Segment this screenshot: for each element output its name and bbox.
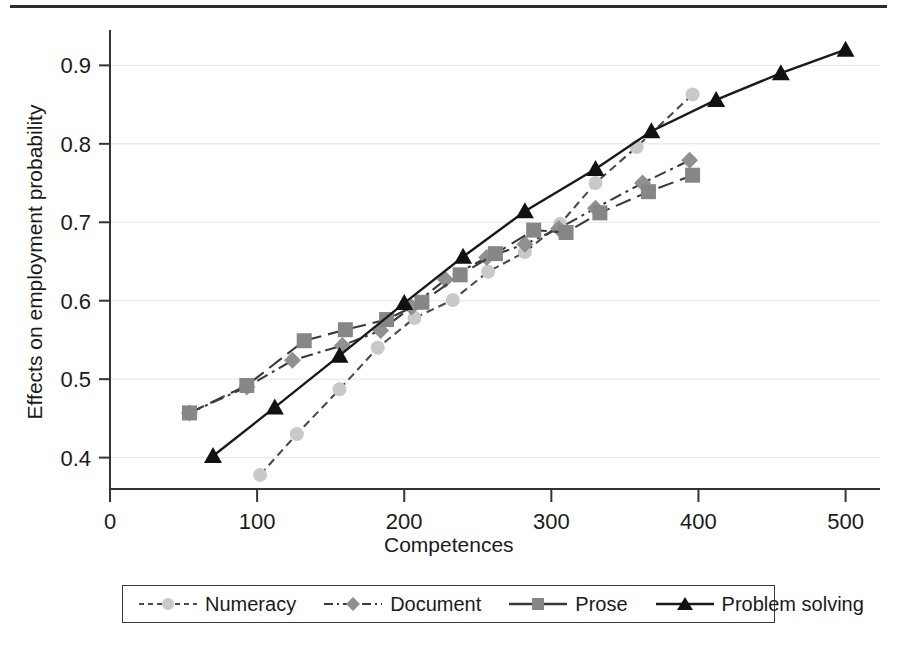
y-tick-label: 0.4 — [60, 446, 91, 471]
series-line — [260, 94, 693, 474]
data-point-square — [641, 184, 656, 199]
data-point-diamond — [334, 337, 351, 354]
x-axis-title: Competences — [384, 533, 514, 556]
data-point-circle — [290, 427, 304, 441]
data-point-square — [559, 225, 574, 240]
gridlines — [110, 65, 880, 457]
legend-label-problem-solving: Problem solving — [716, 594, 868, 614]
legend-entry-document[interactable]: Document — [322, 586, 485, 622]
figure-container: 0.40.50.60.70.80.9 0100200300400500 Comp… — [0, 0, 897, 652]
legend-entry-prose[interactable]: Prose — [507, 586, 631, 622]
data-point-circle — [446, 293, 460, 307]
y-tick-label: 0.8 — [60, 132, 91, 157]
data-point-square — [592, 205, 607, 220]
data-point-triangle — [642, 122, 660, 138]
x-tick-label: 100 — [239, 509, 276, 534]
data-point-triangle — [586, 160, 604, 176]
series-numeracy — [253, 87, 700, 481]
x-tick-label: 0 — [104, 509, 116, 534]
data-point-circle — [253, 468, 267, 482]
legend-key-document-icon — [322, 594, 384, 614]
chart-canvas: 0.40.50.60.70.80.9 0100200300400500 Comp… — [0, 0, 897, 652]
y-axis-title: Effects on employment probability — [23, 104, 46, 419]
series-line — [189, 160, 689, 413]
data-point-circle — [333, 382, 347, 396]
x-tick-label: 300 — [533, 509, 570, 534]
data-point-circle — [588, 176, 602, 190]
data-point-circle — [686, 87, 700, 101]
data-point-triangle — [266, 398, 284, 414]
y-axis-ticks: 0.40.50.60.70.80.9 — [60, 53, 110, 470]
data-point-triangle — [454, 248, 472, 264]
y-tick-label: 0.9 — [60, 53, 91, 78]
data-point-square — [488, 246, 503, 261]
y-tick-label: 0.6 — [60, 289, 91, 314]
x-tick-label: 400 — [680, 509, 717, 534]
legend-label-document: Document — [384, 594, 485, 614]
data-point-triangle — [204, 447, 222, 463]
legend-label-prose: Prose — [569, 594, 631, 614]
legend-key-prose-icon — [507, 594, 569, 614]
data-point-square — [414, 295, 429, 310]
data-point-square — [526, 223, 541, 238]
data-point-square — [182, 405, 197, 420]
data-point-diamond — [681, 152, 698, 169]
data-point-triangle — [772, 64, 790, 80]
chart-legend: Numeracy Document Prose — [122, 585, 775, 623]
series-prose — [182, 168, 700, 421]
data-point-square — [685, 168, 700, 183]
data-point-square — [338, 322, 353, 337]
x-tick-label: 200 — [386, 509, 423, 534]
legend-label-numeracy: Numeracy — [199, 594, 300, 614]
series-document — [181, 152, 698, 422]
data-point-triangle — [837, 41, 855, 57]
legend-key-problem-solving-icon — [654, 594, 716, 614]
data-point-diamond — [284, 352, 301, 369]
data-point-square — [453, 267, 468, 282]
data-point-triangle — [516, 202, 534, 218]
y-tick-label: 0.5 — [60, 367, 91, 392]
legend-entry-problem-solving[interactable]: Problem solving — [654, 586, 868, 622]
legend-entry-numeracy[interactable]: Numeracy — [137, 586, 300, 622]
x-axis-ticks: 0100200300400500 — [104, 489, 864, 534]
data-point-circle — [371, 341, 385, 355]
legend-key-numeracy-icon — [137, 594, 199, 614]
data-point-circle — [481, 265, 495, 279]
data-point-square — [297, 333, 312, 348]
x-tick-label: 500 — [827, 509, 864, 534]
data-point-square — [239, 378, 254, 393]
series-layer — [181, 41, 855, 482]
data-point-triangle — [707, 91, 725, 107]
y-tick-label: 0.7 — [60, 210, 91, 235]
